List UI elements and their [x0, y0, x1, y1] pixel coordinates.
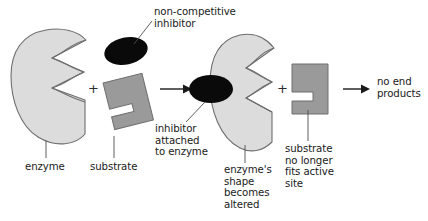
label-inhibitor-attached-line2: attached	[155, 135, 199, 146]
label-no-end-products-line1: no end	[377, 76, 412, 87]
label-inhibitor-attached-line3: to enzyme	[155, 146, 208, 157]
label-inhibitor-title-line1: non-competitive	[154, 6, 236, 17]
label-enzyme-altered-line4: altered	[224, 199, 259, 210]
inhibitor-bound-shape	[189, 75, 233, 103]
label-enzyme-shape-altered: enzyme'sshapebecomesaltered	[224, 164, 272, 210]
substrate-blocked-shape	[292, 64, 328, 114]
label-inhibitor-title-line2: inhibitor	[154, 18, 195, 29]
label-no-end-products: no endproducts	[377, 76, 421, 99]
label-substrate-nofit-line4: site	[285, 178, 303, 189]
label-enzyme: enzyme	[25, 161, 65, 173]
label-enzyme-altered-line2: shape	[224, 176, 254, 187]
label-substrate-nofit-line2: no longer	[285, 155, 332, 166]
label-substrate: substrate	[90, 161, 137, 173]
reaction-arrow-1	[160, 85, 192, 94]
non-competitive-inhibition-diagram: non-competitiveinhibitor + + enzyme subs…	[0, 0, 428, 221]
label-substrate-no-longer-fits: substrateno longerfits activesite	[285, 143, 334, 189]
label-inhibitor-attached-line1: inhibitor	[155, 123, 196, 134]
label-enzyme-altered-line1: enzyme's	[224, 164, 272, 175]
plus-sign-1: +	[88, 82, 99, 95]
substrate-free-shape	[103, 73, 153, 129]
label-substrate-nofit-line3: fits active	[285, 166, 334, 177]
enzyme-normal-shape	[11, 29, 86, 144]
label-enzyme-altered-line3: becomes	[224, 187, 269, 198]
reaction-arrow-2	[343, 85, 370, 94]
plus-sign-2: +	[277, 82, 288, 95]
diagram-canvas	[0, 0, 428, 221]
inhibitor-free-shape	[102, 33, 151, 69]
label-substrate-nofit-line1: substrate	[285, 143, 332, 154]
label-inhibitor-attached: inhibitorattachedto enzyme	[155, 123, 208, 158]
label-non-competitive-inhibitor: non-competitiveinhibitor	[154, 6, 236, 29]
leader-line-inhibitor-attached	[186, 102, 205, 122]
label-no-end-products-line2: products	[377, 88, 421, 99]
